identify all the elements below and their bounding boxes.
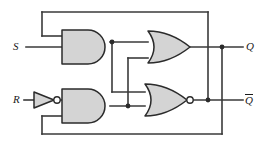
input-label-r: R	[13, 94, 20, 105]
input-label-s: S	[13, 41, 19, 52]
wire-layer	[24, 12, 243, 134]
junction-q-line	[220, 45, 225, 50]
junction-and-bottom-out	[126, 104, 131, 109]
circuit-diagram-canvas: S R Q Q	[0, 0, 263, 145]
output-label-q: Q	[246, 41, 254, 52]
inverter-bubble-icon	[54, 97, 60, 103]
nor-bubble-icon	[187, 97, 193, 103]
junction-qbar-line	[206, 98, 211, 103]
inverter-r[interactable]	[34, 92, 60, 108]
junction-and-top-out	[110, 40, 115, 45]
and-gate-top[interactable]	[62, 30, 105, 64]
nor-gate-bottom[interactable]	[145, 84, 193, 116]
output-label-qbar: Q	[245, 94, 253, 106]
logic-circuit-svg	[0, 0, 263, 145]
and-gate-bottom[interactable]	[62, 89, 105, 123]
output-label-qbar-text: Q	[245, 94, 253, 106]
or-gate-top[interactable]	[148, 31, 190, 63]
